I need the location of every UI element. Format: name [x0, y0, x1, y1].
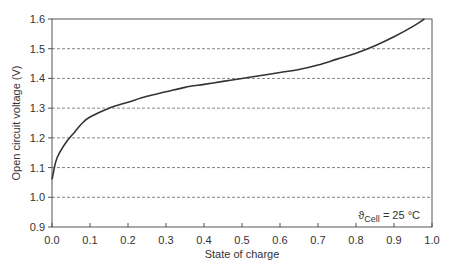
- x-tick-label: 0.2: [120, 234, 135, 246]
- y-axis-label: Open circuit voltage (V): [10, 66, 22, 181]
- y-tick-label: 1.4: [30, 72, 45, 84]
- y-tick-label: 1.5: [30, 43, 45, 55]
- chart: 0.91.01.11.21.31.41.51.6 0.00.10.20.30.4…: [0, 0, 453, 272]
- x-tick-label: 0.1: [82, 234, 97, 246]
- y-tick-label: 0.9: [30, 221, 45, 233]
- gridlines: [52, 49, 432, 198]
- y-tick-label: 1.6: [30, 13, 45, 25]
- x-tick-label: 0.9: [386, 234, 401, 246]
- ocv-curve: [52, 19, 424, 179]
- x-tick-label: 0.6: [272, 234, 287, 246]
- y-tick-label: 1.0: [30, 191, 45, 203]
- y-tick-label: 1.1: [30, 162, 45, 174]
- x-tick-label: 0.7: [310, 234, 325, 246]
- y-axis-ticks: 0.91.01.11.21.31.41.51.6: [30, 13, 52, 233]
- y-tick-label: 1.2: [30, 132, 45, 144]
- x-axis-label: State of charge: [205, 248, 280, 260]
- temperature-annotation: ϑCell = 25 °C: [358, 209, 420, 224]
- x-tick-label: 0.4: [196, 234, 211, 246]
- plot-frame: [52, 19, 432, 227]
- x-tick-label: 1.0: [424, 234, 439, 246]
- x-tick-label: 0.8: [348, 234, 363, 246]
- x-tick-label: 0.5: [234, 234, 249, 246]
- x-tick-label: 0.0: [44, 234, 59, 246]
- y-tick-label: 1.3: [30, 102, 45, 114]
- x-axis-ticks: 0.00.10.20.30.40.50.60.70.80.91.0: [44, 223, 439, 246]
- x-tick-label: 0.3: [158, 234, 173, 246]
